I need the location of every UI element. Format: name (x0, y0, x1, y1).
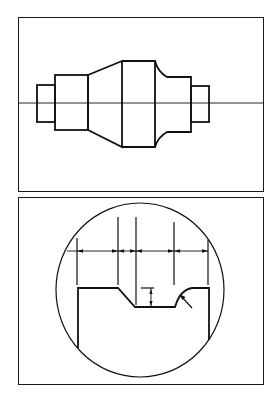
main-cylinder (122, 61, 155, 147)
right-end-step (191, 86, 209, 122)
drawing-canvas (0, 0, 277, 404)
shaft-profile (18, 61, 263, 147)
left-shoulder (55, 75, 88, 130)
groove-profile (78, 288, 209, 348)
radiused-step (155, 61, 191, 147)
groove-detail (56, 203, 224, 377)
conical-taper (88, 61, 122, 147)
left-end-step (37, 85, 55, 122)
detail-circle (56, 203, 224, 377)
depth-arrow-top (149, 289, 152, 294)
depth-arrow-bottom (149, 301, 152, 306)
